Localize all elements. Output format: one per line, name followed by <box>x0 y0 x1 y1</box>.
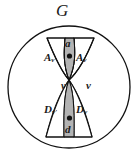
vertex-dot-a <box>67 53 72 58</box>
label-subscript: v <box>83 56 86 64</box>
label-region-d-v-prime: Dv' <box>44 104 57 116</box>
diagram-canvas <box>0 0 139 161</box>
label-region-a-v: Av <box>76 52 86 64</box>
label-subscript: v' <box>52 108 57 116</box>
label-subscript: v <box>84 108 87 116</box>
figure-container: G a Av' Av v' v Dv' Dv d <box>0 0 139 161</box>
label-base: D <box>76 103 84 115</box>
label-shaded-wedge-d: d <box>65 124 71 135</box>
label-base: D <box>44 103 52 115</box>
label-vertex-v-prime: v' <box>61 81 68 91</box>
label-shaded-wedge-a: a <box>65 38 71 49</box>
label-vertex-v: v <box>86 80 91 91</box>
outer-circle-label: G <box>56 2 68 19</box>
label-region-a-v-prime: Av' <box>44 52 56 64</box>
vertex-dot-d <box>67 115 72 120</box>
label-region-d-v: Dv <box>76 104 87 116</box>
label-subscript: v' <box>51 56 56 64</box>
